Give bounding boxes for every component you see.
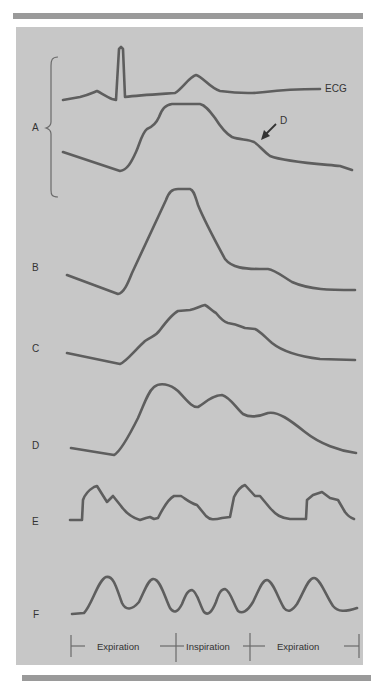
label-d: D	[32, 440, 39, 451]
respiration-axis: Expiration Inspiration Expiration	[71, 633, 359, 662]
trace-c	[67, 305, 355, 364]
trace-b	[67, 189, 355, 294]
trace-a	[63, 104, 352, 171]
label-e: E	[32, 516, 39, 527]
label-a: A	[32, 122, 39, 133]
arrow-d-label: D	[280, 115, 287, 126]
ecg-label: ECG	[325, 83, 347, 94]
phase-expiration-1: Expiration	[97, 641, 139, 652]
trace-d	[71, 384, 356, 455]
trace-e	[70, 485, 354, 520]
label-b: B	[32, 262, 39, 273]
phase-inspiration: Inspiration	[186, 641, 230, 652]
label-c: C	[32, 343, 39, 354]
ecg-trace	[63, 47, 320, 100]
waveform-figure: A B C D E F ECG D Expiration Inspiration…	[0, 0, 384, 683]
phase-expiration-2: Expiration	[277, 641, 319, 652]
arrow-d-icon	[261, 124, 276, 140]
trace-f	[72, 577, 357, 614]
label-f: F	[33, 609, 39, 620]
group-a-bracket	[46, 57, 58, 197]
